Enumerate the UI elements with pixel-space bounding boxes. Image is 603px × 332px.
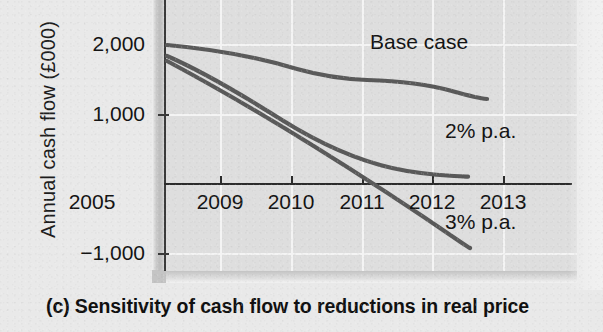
x-tick-label-2013: 2013: [480, 190, 527, 214]
x-tick-label-2010: 2010: [268, 190, 315, 214]
plot-area: Base case 2% p.a. 3% p.a.: [152, 0, 577, 283]
y-tick-label: −1,000: [48, 241, 145, 265]
figure-caption: (c) Sensitivity of cash flow to reductio…: [46, 295, 529, 318]
x-tick-label-2011: 2011: [339, 190, 384, 214]
y-tick-label: 1,000: [48, 102, 145, 126]
y-axis-tick-labels: 2,000 1,000 −1,000: [48, 0, 145, 332]
figure-sensitivity-chart: Annual cash flow (£000) 2,000 1,000 −1,0…: [0, 0, 603, 332]
series-line-3-percent: [167, 61, 470, 248]
y-tick-label: 2,000: [48, 32, 145, 56]
x-tick-label-2012: 2012: [409, 190, 456, 214]
series-label-2-percent: 2% p.a.: [445, 119, 516, 143]
x-tick-label-2009: 2009: [197, 190, 244, 214]
x-tick-label-2005: 2005: [69, 190, 116, 214]
series-label-base-case: Base case: [370, 30, 468, 54]
